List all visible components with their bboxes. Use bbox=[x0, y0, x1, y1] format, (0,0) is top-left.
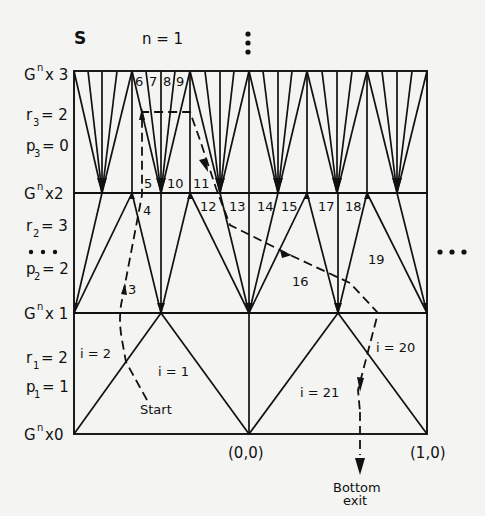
svg-text:r: r bbox=[26, 106, 33, 124]
svg-text:r: r bbox=[26, 349, 33, 367]
svg-text:18: 18 bbox=[345, 199, 362, 214]
svg-text:= 3: = 3 bbox=[41, 217, 68, 235]
svg-text:G: G bbox=[24, 426, 36, 444]
bottom-row-triangles bbox=[74, 313, 427, 434]
svg-text:G: G bbox=[24, 305, 36, 323]
svg-text:x0: x0 bbox=[45, 426, 63, 444]
svg-text:6: 6 bbox=[135, 74, 143, 89]
svg-text:19: 19 bbox=[368, 252, 385, 267]
svg-text:= 2: = 2 bbox=[41, 349, 68, 367]
svg-text:Start: Start bbox=[140, 402, 172, 417]
svg-text:8: 8 bbox=[163, 74, 171, 89]
svg-text:3: 3 bbox=[128, 282, 136, 297]
svg-text:n: n bbox=[37, 301, 43, 312]
svg-text:= 1: = 1 bbox=[42, 378, 69, 396]
svg-text:n: n bbox=[37, 422, 43, 433]
svg-text:11: 11 bbox=[193, 176, 210, 191]
svg-text:i = 21: i = 21 bbox=[300, 385, 339, 400]
right-ellipsis-icon bbox=[437, 249, 466, 254]
svg-text:3: 3 bbox=[34, 148, 40, 159]
param-p3: p 3 = 0 bbox=[26, 137, 69, 159]
param-r2: r 2 = 3 bbox=[26, 217, 68, 239]
param-p1: p 1 = 1 bbox=[26, 378, 69, 400]
unit-coordinate: (1,0) bbox=[410, 444, 446, 462]
svg-text:G: G bbox=[24, 66, 36, 84]
level-label-1: G n x 1 bbox=[24, 301, 68, 323]
svg-text:= 0: = 0 bbox=[42, 137, 69, 155]
svg-text:16: 16 bbox=[292, 274, 309, 289]
svg-text:i = 2: i = 2 bbox=[80, 346, 111, 361]
svg-text:1: 1 bbox=[34, 389, 40, 400]
left-ellipsis-icon bbox=[29, 250, 57, 254]
svg-text:7: 7 bbox=[149, 74, 157, 89]
svg-text:4: 4 bbox=[143, 203, 151, 218]
svg-text:5: 5 bbox=[144, 176, 152, 191]
svg-text:9: 9 bbox=[176, 74, 184, 89]
exit-label-line2: exit bbox=[343, 493, 367, 508]
arrow-down-icon bbox=[199, 158, 208, 172]
level-label-3: G n x 3 bbox=[24, 62, 68, 84]
param-r1: r 1 = 2 bbox=[26, 349, 68, 371]
svg-text:x 3: x 3 bbox=[45, 66, 68, 84]
svg-text:2: 2 bbox=[33, 228, 39, 239]
svg-text:i = 20: i = 20 bbox=[376, 340, 415, 355]
exit-arrow-icon bbox=[355, 458, 365, 475]
svg-text:2: 2 bbox=[34, 271, 40, 282]
svg-text:r: r bbox=[26, 217, 33, 235]
svg-text:10: 10 bbox=[167, 176, 184, 191]
svg-text:n: n bbox=[37, 181, 43, 192]
param-p2: p 2 = 2 bbox=[26, 260, 69, 282]
level-n-label: n = 1 bbox=[142, 30, 183, 48]
svg-text:x 1: x 1 bbox=[45, 305, 68, 323]
svg-text:12: 12 bbox=[200, 199, 217, 214]
triangulation-diagram: S n = 1 G n x 3 G n x2 G n x 1 G n x0 r … bbox=[0, 0, 485, 516]
svg-text:14: 14 bbox=[257, 199, 274, 214]
svg-text:x2: x2 bbox=[45, 185, 63, 203]
vertical-ellipsis-icon bbox=[245, 31, 250, 54]
top-row-fans bbox=[74, 71, 427, 193]
svg-text:n: n bbox=[37, 62, 43, 73]
level-label-0: G n x0 bbox=[24, 422, 63, 444]
svg-text:= 2: = 2 bbox=[41, 106, 68, 124]
svg-text:13: 13 bbox=[229, 199, 246, 214]
svg-text:i = 1: i = 1 bbox=[158, 364, 189, 379]
origin-coordinate: (0,0) bbox=[228, 444, 264, 462]
svg-text:17: 17 bbox=[318, 199, 335, 214]
svg-text:15: 15 bbox=[281, 199, 298, 214]
param-r3: r 3 = 2 bbox=[26, 106, 68, 128]
svg-text:1: 1 bbox=[33, 360, 39, 371]
level-label-2: G n x2 bbox=[24, 181, 63, 203]
corner-label: S bbox=[74, 28, 86, 48]
arrow-up-icon bbox=[139, 108, 145, 120]
svg-text:3: 3 bbox=[33, 117, 39, 128]
svg-text:= 2: = 2 bbox=[42, 260, 69, 278]
svg-text:G: G bbox=[24, 185, 36, 203]
